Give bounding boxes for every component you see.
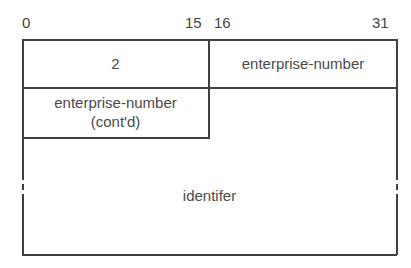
field-enterprise-number: enterprise-number bbox=[209, 54, 397, 73]
bottom-border bbox=[22, 254, 397, 256]
top-border bbox=[22, 39, 397, 41]
contd-box-bottom bbox=[22, 137, 209, 139]
bit-label-31: 31 bbox=[372, 14, 389, 32]
field-enterprise-number-contd-line1: enterprise-number bbox=[22, 93, 209, 112]
bit-label-0: 0 bbox=[22, 14, 30, 32]
field-type-value: 2 bbox=[22, 54, 209, 73]
row-separator bbox=[22, 87, 397, 89]
field-enterprise-number-contd-line2: (cont'd) bbox=[22, 112, 209, 131]
bit-label-15: 15 bbox=[185, 14, 202, 32]
field-identifier: identifer bbox=[22, 186, 397, 205]
bit-label-16: 16 bbox=[214, 14, 231, 32]
